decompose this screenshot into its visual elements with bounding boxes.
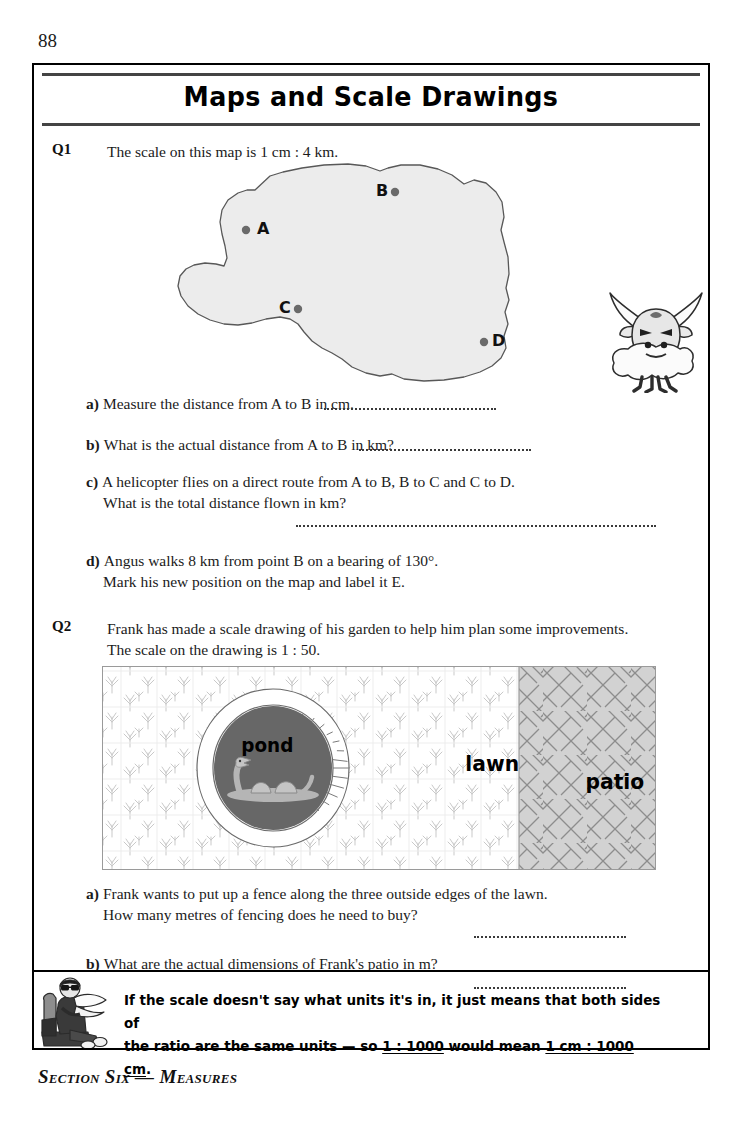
question-1-part-d: d)Angus walks 8 km from point B on a bea… (86, 550, 556, 592)
part-letter: a) (86, 885, 99, 902)
patio-area (519, 667, 655, 869)
part-letter: c) (86, 473, 98, 490)
map-label-a: A (257, 219, 269, 238)
map-point-c-dot (294, 305, 302, 313)
question-1-part-b: b)What is the actual distance from A to … (86, 434, 476, 455)
map-label-b: B (376, 181, 388, 200)
question-2-stem-line-1: Frank has made a scale drawing of his ga… (107, 620, 628, 637)
part-text-line-1: Angus walks 8 km from point B on a beari… (104, 552, 438, 569)
worksheet-panel: Maps and Scale Drawings Q1 The scale on … (32, 63, 710, 1050)
answer-line-q1b[interactable] (359, 446, 531, 451)
bull-mascot-illustration (600, 285, 712, 393)
question-2-label: Q2 (52, 618, 71, 635)
title-band: Maps and Scale Drawings (34, 65, 708, 129)
map-label-d: D (492, 331, 505, 350)
question-1-part-a: a)Measure the distance from A to B in cm… (86, 393, 436, 414)
part-text-line-1: Frank wants to put up a fence along the … (103, 885, 548, 902)
title-rule-bottom (42, 123, 700, 126)
part-text-line-1: A helicopter flies on a direct route fro… (102, 473, 515, 490)
part-text: Measure the distance from A to B in cm. (103, 395, 354, 412)
bull-nostril-left (645, 342, 651, 348)
map-point-b-dot (391, 188, 399, 196)
reader-character-illustration (40, 974, 118, 1048)
tip-box: If the scale doesn't say what units it's… (34, 970, 708, 1048)
answer-line-q1c[interactable] (296, 522, 656, 527)
question-2-stem-line-2: The scale on the drawing is 1 : 50. (107, 641, 320, 658)
part-letter: d) (86, 552, 100, 569)
tip-ratio-1: 1 : 1000 (382, 1038, 444, 1054)
map-illustration: A B C D (152, 162, 552, 387)
pond-water (214, 706, 332, 830)
page-title: Maps and Scale Drawings (54, 81, 688, 112)
question-1-part-c: c)A helicopter flies on a direct route f… (86, 471, 556, 513)
part-text: What is the actual distance from A to B … (104, 436, 394, 453)
part-text-line-2: How many metres of fencing does he need … (103, 906, 418, 923)
section-footer: Section Six — Measures (38, 1066, 237, 1088)
question-2-part-a: a)Frank wants to put up a fence along th… (86, 883, 586, 925)
question-1-label: Q1 (52, 141, 71, 158)
part-text-line-2: Mark his new position on the map and lab… (103, 573, 405, 590)
answer-line-q2a[interactable] (474, 933, 626, 938)
bull-nostril-right (661, 342, 667, 348)
map-point-a-dot (242, 226, 250, 234)
tip-line-1: If the scale doesn't say what units it's… (124, 992, 660, 1031)
garden-svg (103, 667, 655, 869)
lawn-label: lawn (465, 751, 519, 776)
pond-label: pond (241, 733, 293, 757)
question-2-stem: Frank has made a scale drawing of his ga… (107, 618, 692, 660)
bull-svg (600, 285, 712, 393)
reader-svg (40, 974, 118, 1048)
page-number: 88 (38, 30, 57, 52)
patio-label: patio (586, 769, 645, 794)
part-letter: a) (86, 395, 99, 412)
title-rule-top (42, 73, 700, 76)
part-text-line-2: What is the total distance flown in km? (103, 494, 346, 511)
answer-line-q1a[interactable] (324, 405, 496, 410)
question-1-stem: The scale on this map is 1 cm : 4 km. (107, 141, 338, 162)
tip-line-2-pre: the ratio are the same units — so (124, 1038, 382, 1054)
tip-line-2-mid: would mean (444, 1038, 546, 1054)
map-svg (152, 162, 552, 387)
part-letter: b) (86, 436, 100, 453)
map-point-d-dot (480, 338, 488, 346)
map-label-c: C (279, 298, 291, 317)
map-landmass-shape (178, 164, 509, 381)
garden-scale-drawing: pond lawn patio (102, 666, 656, 870)
